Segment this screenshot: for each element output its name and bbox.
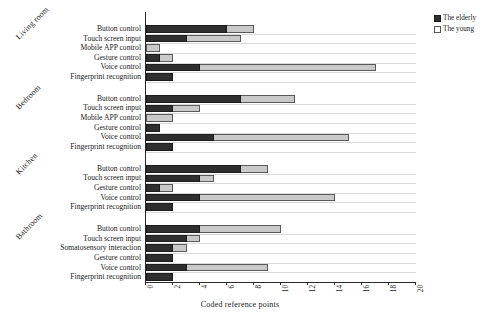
gridline [146, 72, 416, 73]
gridline [146, 123, 416, 124]
x-tick-label: 18 [391, 285, 398, 292]
category-label: Button control [97, 164, 141, 173]
x-tick-label: 4 [202, 285, 209, 289]
bar-young [146, 44, 160, 52]
category-label: Voice control [100, 62, 141, 71]
category-label: Fingerprint recognition [70, 72, 141, 81]
bar-chart: 02468101214161820 Button controlTouch sc… [0, 0, 480, 321]
gridline [146, 152, 416, 153]
x-tick-label: 0 [148, 285, 155, 289]
category-labels: Button controlTouch screen inputMobile A… [0, 0, 143, 321]
x-tick-label: 6 [229, 285, 236, 289]
x-tick-label: 20 [418, 285, 425, 292]
x-tick-label: 14 [337, 285, 344, 292]
bar-elderly [146, 105, 173, 113]
x-tick-mark [199, 282, 200, 285]
bar-elderly [146, 124, 160, 132]
bar-elderly [146, 175, 200, 183]
category-label: Button control [97, 224, 141, 233]
gridline [146, 142, 416, 143]
bar-elderly [146, 184, 160, 192]
category-label: Mobile APP control [81, 43, 141, 52]
category-label: Gesture control [94, 53, 141, 62]
category-label: Button control [97, 94, 141, 103]
category-label: Fingerprint recognition [70, 202, 141, 211]
gridline [146, 212, 416, 213]
x-tick-mark [145, 282, 146, 285]
gridline [146, 113, 416, 114]
gridline [146, 43, 416, 44]
bar-elderly [146, 73, 173, 81]
bar-elderly [146, 64, 200, 72]
x-tick-label: 16 [364, 285, 371, 292]
gridline [146, 183, 416, 184]
legend-swatch-elderly [434, 15, 441, 22]
x-tick-mark [361, 282, 362, 285]
category-label: Voice control [100, 263, 141, 272]
gridline [146, 272, 416, 273]
x-tick-mark [334, 282, 335, 285]
category-label: Fingerprint recognition [70, 272, 141, 281]
chart-legend: The elderly The young [434, 13, 476, 35]
x-axis-title: Coded reference points [0, 300, 480, 309]
legend-swatch-young [434, 26, 441, 33]
gridline [146, 53, 416, 54]
bar-elderly [146, 25, 227, 33]
gridline [146, 243, 416, 244]
bar-elderly [146, 95, 241, 103]
category-label: Touch screen input [83, 173, 141, 182]
legend-item-young: The young [434, 24, 476, 34]
category-label: Fingerprint recognition [70, 142, 141, 151]
bar-elderly [146, 165, 241, 173]
bar-elderly [146, 134, 214, 142]
category-label: Voice control [100, 193, 141, 202]
bar-elderly [146, 54, 160, 62]
bar-elderly [146, 235, 187, 243]
legend-item-elderly: The elderly [434, 13, 476, 23]
x-tick-mark [226, 282, 227, 285]
bar-elderly [146, 203, 173, 211]
legend-label-young: The young [443, 24, 474, 34]
bar-elderly [146, 264, 187, 272]
bar-elderly [146, 225, 200, 233]
category-label: Voice control [100, 132, 141, 141]
category-label: Button control [97, 24, 141, 33]
x-tick-mark [253, 282, 254, 285]
category-label: Gesture control [94, 253, 141, 262]
gridline [146, 82, 416, 83]
bar-young [146, 114, 173, 122]
x-tick-label: 8 [256, 285, 263, 289]
gridline [146, 202, 416, 203]
x-tick-mark [280, 282, 281, 285]
x-tick-mark [415, 282, 416, 285]
gridline [146, 253, 416, 254]
bar-elderly [146, 143, 173, 151]
category-label: Mobile APP control [81, 113, 141, 122]
bar-elderly [146, 194, 200, 202]
x-tick-mark [172, 282, 173, 285]
category-label: Touch screen input [83, 103, 141, 112]
category-label: Gesture control [94, 183, 141, 192]
category-label: Gesture control [94, 123, 141, 132]
bar-elderly [146, 273, 173, 281]
x-tick-mark [388, 282, 389, 285]
category-label: Touch screen input [83, 234, 141, 243]
legend-label-elderly: The elderly [443, 13, 476, 23]
category-label: Touch screen input [83, 34, 141, 43]
bar-elderly [146, 254, 173, 262]
plot-area [145, 12, 416, 282]
x-tick-label: 2 [175, 285, 182, 289]
bar-elderly [146, 35, 187, 43]
category-label: Somatosensory interaction [60, 243, 141, 252]
x-tick-mark [307, 282, 308, 285]
x-tick-label: 10 [283, 285, 290, 292]
bar-elderly [146, 244, 173, 252]
x-tick-label: 12 [310, 285, 317, 292]
